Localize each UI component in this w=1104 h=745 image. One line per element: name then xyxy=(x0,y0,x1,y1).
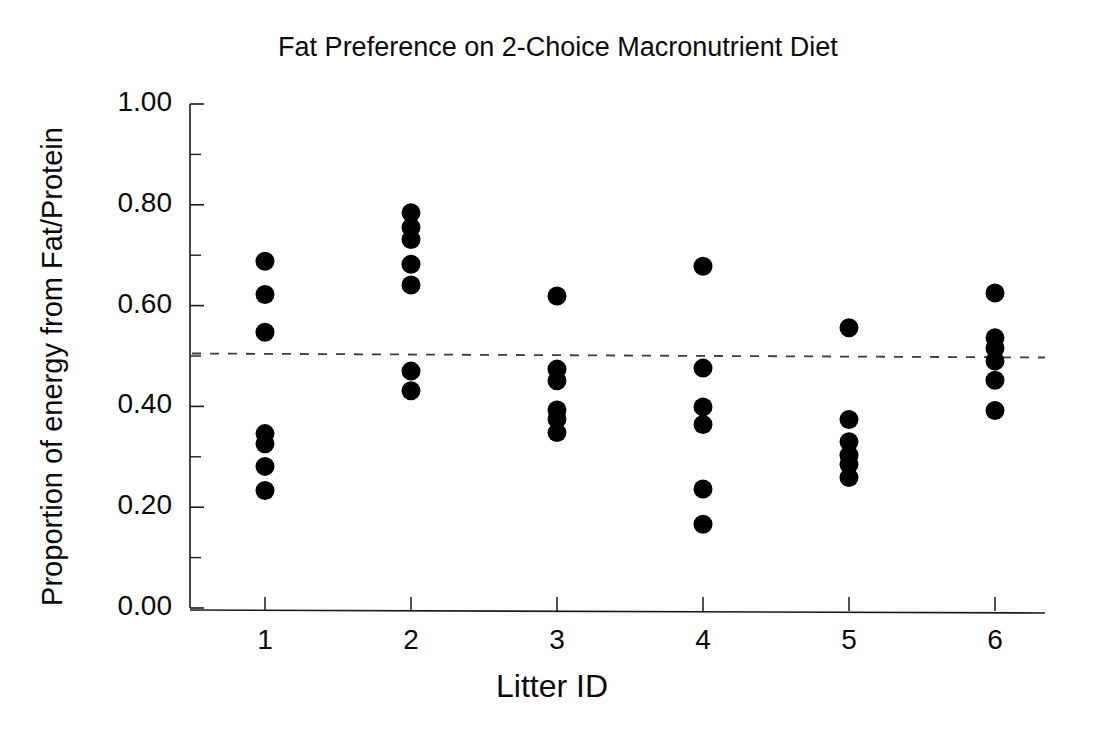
data-point xyxy=(256,457,275,476)
x-tick-label: 3 xyxy=(527,624,587,656)
data-point xyxy=(256,323,275,342)
data-point xyxy=(256,285,275,304)
y-tick-label: 0.00 xyxy=(62,590,172,622)
x-tick-label: 2 xyxy=(381,624,441,656)
data-point xyxy=(986,371,1005,390)
data-point xyxy=(256,252,275,271)
data-point xyxy=(548,371,567,390)
x-tick-label: 4 xyxy=(673,624,733,656)
x-tick-label: 6 xyxy=(965,624,1025,656)
data-point xyxy=(402,275,421,294)
x-tick-label: 1 xyxy=(235,624,295,656)
data-point xyxy=(402,362,421,381)
data-point xyxy=(694,359,713,378)
reference-line xyxy=(192,353,1045,357)
x-axis-spine xyxy=(190,610,1045,613)
data-point xyxy=(402,381,421,400)
data-point xyxy=(694,397,713,416)
chart-figure: Fat Preference on 2-Choice Macronutrient… xyxy=(0,0,1104,745)
axes-group xyxy=(190,104,1045,613)
data-point xyxy=(986,284,1005,303)
y-tick-label: 0.80 xyxy=(62,187,172,219)
data-point xyxy=(840,410,859,429)
data-point xyxy=(840,318,859,337)
x-tick-label: 5 xyxy=(819,624,879,656)
data-point xyxy=(694,257,713,276)
data-point xyxy=(548,423,567,442)
y-tick-label: 0.20 xyxy=(62,489,172,521)
data-point xyxy=(548,287,567,306)
y-tick-label: 0.40 xyxy=(62,388,172,420)
y-tick-label: 0.60 xyxy=(62,288,172,320)
data-point xyxy=(256,434,275,453)
data-point xyxy=(694,480,713,499)
reference-line-group xyxy=(192,353,1045,357)
data-points-group xyxy=(256,203,1005,533)
y-tick-label: 1.00 xyxy=(62,86,172,118)
data-point xyxy=(840,468,859,487)
data-point xyxy=(402,230,421,249)
data-point xyxy=(694,515,713,534)
data-point xyxy=(986,401,1005,420)
data-point xyxy=(986,352,1005,371)
data-point xyxy=(694,415,713,434)
data-point xyxy=(256,481,275,500)
data-point xyxy=(402,255,421,274)
